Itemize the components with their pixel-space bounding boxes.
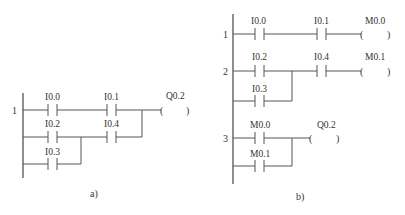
coil-q0-2: ( ) Q0.2 bbox=[160, 91, 189, 117]
contact-i0-1: I0.1 bbox=[314, 16, 329, 26]
svg-text:): ) bbox=[336, 133, 339, 145]
svg-text:): ) bbox=[387, 66, 390, 78]
svg-text:2: 2 bbox=[223, 66, 228, 77]
panel-a: 1 I0.0 I0.1 ( ) Q0.2 I0.2 bbox=[12, 91, 189, 200]
contact-i0-0: I0.0 bbox=[251, 16, 266, 26]
caption-b: b) bbox=[296, 191, 304, 203]
svg-text:): ) bbox=[186, 105, 189, 117]
svg-text:I0.0: I0.0 bbox=[45, 92, 60, 102]
contact-i0-4: I0.4 bbox=[104, 119, 119, 143]
caption-a: a) bbox=[90, 188, 98, 200]
svg-text:I0.3: I0.3 bbox=[45, 147, 60, 157]
svg-text:3: 3 bbox=[223, 133, 228, 144]
contact-i0-0: I0.0 bbox=[23, 92, 60, 116]
svg-text:Q0.2: Q0.2 bbox=[166, 91, 185, 101]
contact-i0-1: I0.1 bbox=[104, 92, 119, 116]
contact-i0-3: I0.3 bbox=[252, 84, 267, 94]
coil-m0-1: M0.1 bbox=[365, 52, 386, 62]
rung-3: 3 M0.0 ( ) Q0.2 M0.1 bbox=[223, 120, 339, 172]
contact-i0-3: I0.3 bbox=[45, 147, 60, 170]
rung-1: 1 I0.0 I0.1 ( ) M0.0 bbox=[223, 16, 390, 41]
svg-text:I0.1: I0.1 bbox=[104, 92, 119, 102]
rung-number: 1 bbox=[12, 105, 17, 116]
svg-text:(: ( bbox=[360, 29, 364, 41]
contact-i0-4: I0.4 bbox=[314, 52, 329, 62]
panel-b: 1 I0.0 I0.1 ( ) M0.0 2 I0.2 I0.4 bbox=[223, 14, 390, 203]
contact-m0-0: M0.0 bbox=[250, 120, 271, 130]
svg-text:1: 1 bbox=[223, 29, 228, 40]
contact-m0-1: M0.1 bbox=[250, 149, 271, 159]
svg-text:(: ( bbox=[160, 105, 164, 117]
svg-text:I0.2: I0.2 bbox=[45, 119, 60, 129]
svg-text:(: ( bbox=[360, 66, 364, 78]
svg-text:): ) bbox=[387, 29, 390, 41]
svg-text:(: ( bbox=[309, 133, 313, 145]
coil-m0-0: M0.0 bbox=[365, 16, 386, 26]
contact-i0-2: I0.2 bbox=[252, 52, 267, 62]
contact-i0-2: I0.2 bbox=[45, 119, 60, 143]
ladder-diagram: 1 I0.0 I0.1 ( ) Q0.2 I0.2 bbox=[0, 0, 405, 215]
coil-q0-2: Q0.2 bbox=[317, 120, 336, 130]
rung-2: 2 I0.2 I0.4 ( ) M0.1 I0.3 bbox=[223, 52, 390, 107]
svg-text:I0.4: I0.4 bbox=[104, 119, 119, 129]
